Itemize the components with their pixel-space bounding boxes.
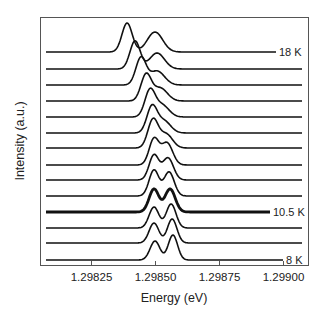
spectrum-curve [46, 219, 302, 243]
x-tick-label: 1.29825 [71, 271, 113, 283]
spectrum-curve [46, 88, 302, 117]
spectrum-curve [46, 104, 302, 133]
spectrum-curve [46, 235, 283, 260]
spectrum-curve [46, 41, 302, 69]
spectra-curves [46, 23, 302, 260]
curve-label: 10.5 K [273, 206, 305, 218]
spectrum-curve [46, 154, 302, 180]
spectrum-curve [46, 73, 302, 101]
x-tick-label: 1.29875 [199, 271, 241, 283]
spectrum-curve [46, 23, 276, 52]
curve-label: 18 K [279, 46, 302, 58]
spectrum-curve [46, 204, 302, 228]
x-tick-label: 1.29900 [263, 271, 305, 283]
spectra-chart: 18 K10.5 K8 K 1.298251.298501.298751.299… [0, 0, 324, 322]
x-axis-ticks: 1.298251.298501.298751.29900 [71, 261, 305, 283]
x-tick-label: 1.29850 [135, 271, 177, 283]
y-axis-label: Intensity (a.u.) [13, 101, 27, 180]
curve-label: 8 K [286, 254, 303, 266]
spectrum-curve [46, 57, 302, 85]
curve-labels: 18 K10.5 K8 K [273, 46, 305, 266]
x-axis-label: Energy (eV) [141, 291, 208, 305]
spectrum-curve [46, 189, 270, 212]
